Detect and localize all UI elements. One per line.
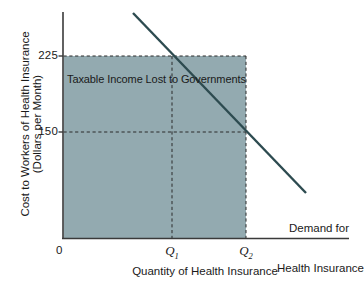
- origin-label: 0: [56, 244, 62, 257]
- y-axis-title-line-1: Cost to Workers of Health Insurance: [19, 9, 31, 239]
- x-tick-label-q1: Q1: [157, 243, 187, 261]
- y-axis-title-line-2: (Dollars per Month): [31, 9, 43, 239]
- demand-curve-label-line-1: Demand for: [277, 222, 361, 235]
- x-tick-q2-base: Q: [239, 243, 248, 258]
- x-tick-label-q2: Q2: [231, 243, 261, 261]
- shaded-area-label: Taxable Income Lost to Governments: [67, 73, 246, 86]
- y-axis-title: Cost to Workers of Health Insurance (Dol…: [19, 9, 51, 239]
- x-tick-q2-subscript: 2: [249, 251, 253, 261]
- demand-curve-label-line-2: Health Insurance: [277, 262, 361, 275]
- x-tick-q1-base: Q: [165, 243, 174, 258]
- demand-curve-label: Demand for Health Insurance: [277, 195, 361, 288]
- x-tick-q1-subscript: 1: [175, 251, 179, 261]
